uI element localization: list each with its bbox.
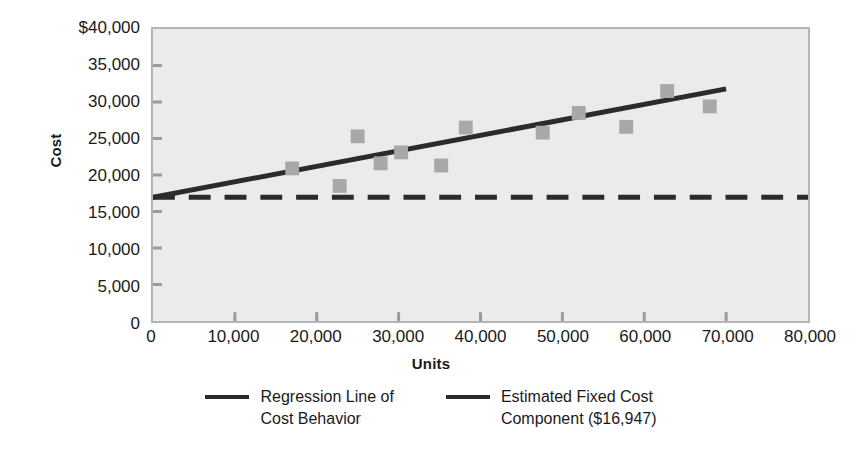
data-point-marker (660, 84, 674, 98)
x-tick-label: 20,000 (290, 328, 342, 345)
data-point-marker (333, 179, 347, 193)
x-tick-label: 80,000 (784, 328, 836, 345)
data-point-marker (619, 120, 633, 134)
legend-item[interactable]: Estimated Fixed Cost Component ($16,947) (446, 386, 657, 430)
legend-line-swatch (446, 395, 490, 399)
x-tick-label: 40,000 (455, 328, 507, 345)
x-tick-label: 30,000 (372, 328, 424, 345)
data-point-marker (703, 99, 717, 113)
x-tick-label: 10,000 (207, 328, 259, 345)
x-axis-title: Units (0, 355, 862, 372)
chart-legend: Regression Line of Cost BehaviorEstimate… (0, 386, 862, 430)
data-point-marker (374, 156, 388, 170)
data-point-marker (285, 162, 299, 176)
x-tick-label: 50,000 (537, 328, 589, 345)
plot-area (151, 27, 810, 323)
data-point-marker (459, 121, 473, 135)
data-point-marker (394, 145, 408, 159)
x-tick-label: 60,000 (619, 328, 671, 345)
cost-behavior-chart: Cost $40,00035,00030,00025,00020,00015,0… (0, 0, 862, 468)
data-point-marker (536, 126, 550, 140)
plot-canvas (153, 29, 808, 321)
data-point-marker (434, 159, 448, 173)
x-tick-label: 70,000 (702, 328, 754, 345)
legend-item[interactable]: Regression Line of Cost Behavior (205, 386, 393, 430)
data-point-marker (572, 106, 586, 120)
x-tick-label: 0 (146, 328, 155, 345)
legend-line-swatch (205, 395, 249, 399)
regression-line-group (153, 89, 726, 197)
legend-label: Regression Line of Cost Behavior (260, 386, 393, 430)
legend-label: Estimated Fixed Cost Component ($16,947) (501, 386, 657, 430)
data-point-marker (351, 129, 365, 143)
regression-line (153, 89, 726, 197)
